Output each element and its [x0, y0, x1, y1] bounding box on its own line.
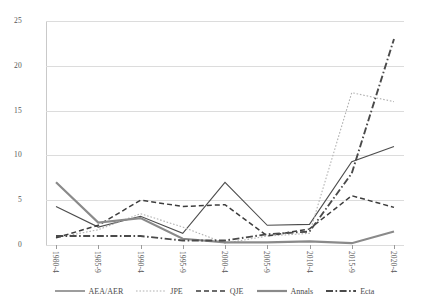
series-line-annals — [56, 182, 394, 243]
legend-item-annals[interactable]: Annals — [257, 287, 314, 296]
chart-container: 0510152025 1980-41985-91990-41995-92000-… — [0, 0, 429, 303]
legend-label: Annals — [291, 287, 314, 296]
series-lines — [0, 0, 429, 303]
legend-swatch-ecta-icon — [326, 287, 356, 295]
series-line-qje — [56, 196, 394, 238]
series-line-ecta — [56, 39, 394, 241]
legend-label: Ecta — [360, 287, 374, 296]
series-line-aea-aer — [56, 146, 394, 233]
chart-legend: AEA/AERJPEQJEAnnalsEcta — [0, 282, 429, 300]
legend-swatch-aea-aer-icon — [55, 287, 85, 295]
legend-item-jpe[interactable]: JPE — [136, 287, 182, 296]
legend-swatch-qje-icon — [196, 287, 226, 295]
legend-swatch-jpe-icon — [136, 287, 166, 295]
legend-label: JPE — [170, 287, 182, 296]
legend-item-aea-aer[interactable]: AEA/AER — [55, 287, 124, 296]
legend-label: QJE — [230, 287, 244, 296]
legend-item-ecta[interactable]: Ecta — [326, 287, 374, 296]
legend-swatch-annals-icon — [257, 287, 287, 295]
legend-item-qje[interactable]: QJE — [196, 287, 244, 296]
legend-label: AEA/AER — [89, 287, 124, 296]
